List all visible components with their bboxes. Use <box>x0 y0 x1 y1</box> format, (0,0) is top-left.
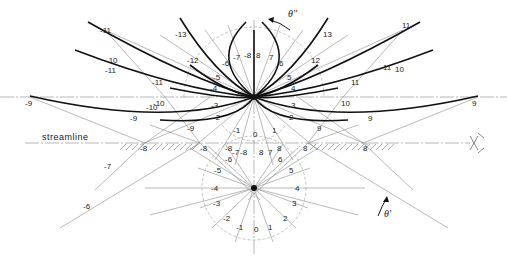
svg-text:-13: -13 <box>175 30 187 39</box>
svg-text:7: 7 <box>268 148 273 157</box>
upper-node <box>251 94 257 100</box>
svg-text:-9: -9 <box>187 124 195 133</box>
arrowhead-icon <box>268 17 274 23</box>
svg-text:-11: -11 <box>105 66 117 75</box>
svg-text:7: 7 <box>269 53 274 62</box>
characteristics-diagram: streamline θ'' θ' -13 13 -12 12 -11 11 -… <box>0 0 507 261</box>
theta-upper-label: θ'' <box>288 8 298 19</box>
svg-text:-6: -6 <box>83 202 91 211</box>
svg-text:4: 4 <box>291 84 296 93</box>
svg-text:-12: -12 <box>187 56 199 65</box>
svg-text:10: 10 <box>341 99 350 108</box>
svg-text:6: 6 <box>278 155 283 164</box>
svg-text:11: 11 <box>351 78 360 87</box>
svg-text:9: 9 <box>317 124 322 133</box>
svg-text:-7: -7 <box>233 53 241 62</box>
svg-text:9: 9 <box>472 99 477 108</box>
streamline-label: streamline <box>42 132 89 142</box>
svg-text:11: 11 <box>402 21 411 30</box>
svg-text:2: 2 <box>283 214 288 223</box>
lower-node <box>251 185 257 191</box>
svg-text:0: 0 <box>254 225 259 234</box>
svg-text:5: 5 <box>289 166 294 175</box>
svg-text:-2: -2 <box>213 113 221 122</box>
svg-text:8: 8 <box>277 144 282 153</box>
svg-text:-5: -5 <box>214 166 222 175</box>
svg-text:-8: -8 <box>225 144 233 153</box>
svg-text:-4: -4 <box>210 84 218 93</box>
svg-text:13: 13 <box>323 30 332 39</box>
svg-text:-6: -6 <box>222 59 230 68</box>
svg-text:1: 1 <box>272 126 277 135</box>
svg-text:-6: -6 <box>225 155 233 164</box>
svg-text:-11: -11 <box>152 78 164 87</box>
svg-text:8: 8 <box>259 148 264 157</box>
svg-text:4: 4 <box>295 184 300 193</box>
svg-text:-10: -10 <box>146 103 158 112</box>
svg-text:-7: -7 <box>104 162 112 171</box>
svg-text:1: 1 <box>268 223 273 232</box>
svg-text:-3: -3 <box>213 199 221 208</box>
svg-text:-7: -7 <box>232 148 240 157</box>
svg-text:12: 12 <box>311 56 320 65</box>
outer-labels: -13 13 -12 12 -11 11 -11 11 -10 10 -10 1… <box>25 21 477 211</box>
svg-text:11: 11 <box>383 63 392 72</box>
theta-lower-label: θ' <box>384 208 392 219</box>
svg-text:-10: -10 <box>106 56 118 65</box>
svg-text:-1: -1 <box>233 126 241 135</box>
svg-text:-9: -9 <box>130 114 138 123</box>
svg-text:-3: -3 <box>211 101 219 110</box>
svg-text:-8: -8 <box>200 144 208 153</box>
flow-end-symbol-icon <box>470 133 484 153</box>
lower-circle-labels: -8 -7 -6 -5 -4 -3 -2 -1 0 1 2 3 4 5 6 7 … <box>211 148 300 234</box>
svg-text:-8: -8 <box>140 144 148 153</box>
svg-text:3: 3 <box>291 101 296 110</box>
wall-hatching <box>120 144 394 150</box>
svg-text:8: 8 <box>303 144 308 153</box>
svg-text:5: 5 <box>287 73 292 82</box>
svg-text:-8: -8 <box>240 148 248 157</box>
svg-text:3: 3 <box>292 199 297 208</box>
svg-text:-11: -11 <box>100 26 112 35</box>
svg-text:-4: -4 <box>211 184 219 193</box>
svg-text:10: 10 <box>395 65 404 74</box>
svg-text:-2: -2 <box>223 214 231 223</box>
svg-text:-1: -1 <box>236 223 244 232</box>
svg-text:-8: -8 <box>244 51 252 60</box>
svg-text:6: 6 <box>279 59 284 68</box>
arrowhead-icon <box>383 196 389 202</box>
svg-text:-5: -5 <box>213 73 221 82</box>
svg-text:9: 9 <box>368 114 373 123</box>
svg-text:8: 8 <box>363 144 368 153</box>
svg-text:2: 2 <box>289 113 294 122</box>
svg-text:8: 8 <box>256 51 261 60</box>
svg-text:-9: -9 <box>25 99 33 108</box>
svg-text:0: 0 <box>253 130 258 139</box>
